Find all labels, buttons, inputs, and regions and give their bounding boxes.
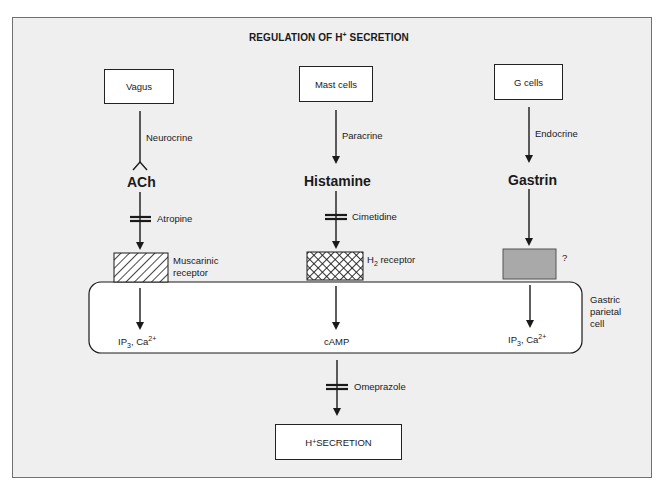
second-messenger-left: IP3, Ca2+ <box>118 337 156 347</box>
receptor-label-h2: H2 receptor <box>367 255 415 265</box>
route-label-neurocrine: Neurocrine <box>146 133 192 143</box>
blocker-omeprazole: Omeprazole <box>354 382 406 392</box>
source-box-mast-cells: Mast cells <box>299 66 373 102</box>
route-label-endocrine: Endocrine <box>535 129 578 139</box>
messenger-gastrin: Gastrin <box>508 173 557 187</box>
route-label-paracrine: Paracrine <box>342 131 383 141</box>
source-box-g-cells: G cells <box>494 64 563 100</box>
receptor-label-muscarinic: Muscarinic receptor <box>173 255 218 279</box>
parietal-cell-label: Gastric parietal cell <box>590 294 621 330</box>
muscarinic-receptor <box>114 253 168 282</box>
blocker-cimetidine: Cimetidine <box>352 212 397 222</box>
synapse-fork-icon <box>133 162 147 170</box>
receptor-label-unknown: ? <box>562 253 567 263</box>
blocker-atropine: Atropine <box>157 214 192 224</box>
second-messenger-middle: cAMP <box>324 337 349 347</box>
source-box-vagus: Vagus <box>104 69 174 104</box>
h2-receptor <box>307 252 363 280</box>
messenger-ach: ACh <box>127 175 156 189</box>
messenger-histamine: Histamine <box>304 174 371 188</box>
output-box-h-secretion: H+ SECRETION <box>275 424 402 460</box>
second-messenger-right: IP3, Ca2+ <box>508 335 546 345</box>
diagram-title: REGULATION OF H+ SECRETION <box>249 33 409 43</box>
gastrin-receptor <box>503 249 556 279</box>
